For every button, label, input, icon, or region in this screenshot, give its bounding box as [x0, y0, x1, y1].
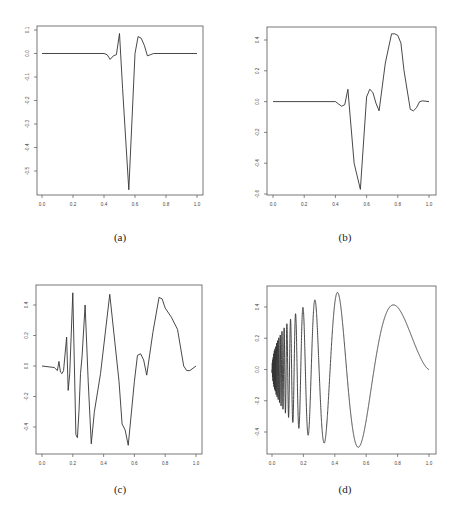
panel-d: 0.00.20.40.60.81.00.40.20.0-0.2-0.4	[230, 260, 460, 520]
y-tick-label: 0.0	[255, 98, 260, 105]
x-tick-label: 0.2	[301, 202, 308, 207]
line-chart-b: 0.00.20.40.60.81.00.40.20.0-0.2-0.4-0.6	[230, 0, 460, 250]
data-line	[42, 293, 196, 446]
x-tick-label: 0.8	[162, 461, 169, 466]
x-tick-label: 0.4	[332, 202, 339, 207]
caption-c: (c)	[100, 483, 140, 495]
x-tick-label: 0.8	[394, 461, 401, 466]
x-tick-label: 1.0	[193, 461, 200, 466]
caption-a: (a)	[100, 231, 140, 243]
x-tick-label: 0.2	[70, 202, 77, 207]
panel-a: 0.00.20.40.60.81.00.10.0-0.1-0.2-0.3-0.4…	[0, 0, 230, 250]
x-tick-label: 1.0	[426, 461, 433, 466]
y-tick-label: -0.3	[25, 120, 30, 128]
y-tick-label: 0.4	[255, 36, 260, 43]
y-tick-label: -0.2	[255, 128, 260, 136]
y-tick-label: -0.6	[255, 190, 260, 198]
x-tick-label: 0.6	[363, 461, 370, 466]
line-chart-d: 0.00.20.40.60.81.00.40.20.0-0.2-0.4	[230, 260, 460, 520]
panel-b: 0.00.20.40.60.81.00.40.20.0-0.2-0.4-0.6	[230, 0, 460, 250]
y-tick-label: -0.2	[255, 396, 260, 404]
x-tick-label: 0.4	[101, 202, 108, 207]
y-tick-label: 0.0	[24, 362, 29, 369]
plot-frame	[267, 286, 436, 454]
y-tick-label: 0.2	[255, 67, 260, 74]
x-tick-label: 0.8	[163, 202, 170, 207]
x-tick-label: 0.0	[39, 202, 46, 207]
y-tick-label: 0.4	[24, 301, 29, 308]
x-tick-label: 0.8	[395, 202, 402, 207]
caption-b: (b)	[325, 231, 365, 243]
x-tick-label: 0.2	[70, 461, 77, 466]
x-tick-label: 0.4	[100, 461, 107, 466]
x-tick-label: 0.0	[269, 461, 276, 466]
x-tick-label: 0.0	[270, 202, 277, 207]
y-tick-label: -0.1	[25, 73, 30, 81]
data-line	[273, 34, 429, 190]
panel-c: 0.00.20.40.60.81.00.40.20.0-0.2-0.4	[0, 260, 230, 520]
data-line	[42, 34, 197, 190]
y-tick-label: -0.4	[255, 428, 260, 436]
y-tick-label: -0.4	[24, 423, 29, 431]
y-tick-label: -0.5	[25, 167, 30, 175]
plot-frame	[37, 26, 203, 195]
y-tick-label: 0.0	[25, 50, 30, 57]
x-tick-label: 1.0	[426, 202, 433, 207]
line-chart-a: 0.00.20.40.60.81.00.10.0-0.1-0.2-0.3-0.4…	[0, 0, 230, 250]
x-tick-label: 1.0	[194, 202, 201, 207]
x-tick-label: 0.4	[332, 461, 339, 466]
x-tick-label: 0.0	[39, 461, 46, 466]
plot-frame	[267, 27, 436, 195]
x-tick-label: 0.6	[363, 202, 370, 207]
y-tick-label: 0.4	[255, 303, 260, 310]
caption-d: (d)	[325, 483, 365, 495]
line-chart-c: 0.00.20.40.60.81.00.40.20.0-0.2-0.4	[0, 260, 230, 520]
x-tick-label: 0.6	[132, 202, 139, 207]
y-tick-label: 0.2	[255, 335, 260, 342]
y-tick-label: -0.2	[25, 96, 30, 104]
y-tick-label: -0.4	[255, 159, 260, 167]
y-tick-label: -0.2	[24, 392, 29, 400]
y-tick-label: 0.2	[24, 332, 29, 339]
x-tick-label: 0.6	[131, 461, 138, 466]
x-tick-label: 0.2	[300, 461, 307, 466]
data-line	[272, 292, 429, 447]
y-tick-label: -0.4	[25, 143, 30, 151]
y-tick-label: 0.1	[25, 26, 30, 33]
plot-frame	[36, 285, 202, 454]
y-tick-label: 0.0	[255, 366, 260, 373]
